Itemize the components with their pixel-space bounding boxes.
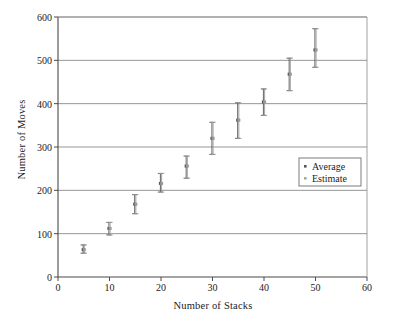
marker: [134, 203, 137, 206]
data-series-group: [81, 29, 319, 253]
datapoint-average-x50: [312, 29, 317, 68]
marker: [83, 248, 86, 251]
marker: [160, 182, 163, 185]
marker: [109, 227, 112, 230]
gridlines: [58, 17, 367, 234]
chart-figure: Number of Moves Number of Stacks 0100200…: [0, 0, 401, 324]
chart-legend: AverageEstimate: [299, 158, 361, 186]
marker: [212, 137, 215, 140]
marker: [237, 119, 240, 122]
legend-label-estimate: Estimate: [312, 173, 348, 184]
axis-ticks: [54, 17, 367, 281]
marker: [289, 73, 292, 76]
marker: [315, 48, 318, 51]
marker: [263, 100, 266, 103]
plot-area: AverageEstimate: [0, 0, 401, 324]
datapoint-estimate-x50: [314, 29, 319, 68]
legend-marker-average: [304, 165, 307, 168]
legend-marker-estimate: [304, 177, 307, 180]
marker: [186, 165, 189, 168]
legend-label-average: Average: [312, 161, 346, 172]
